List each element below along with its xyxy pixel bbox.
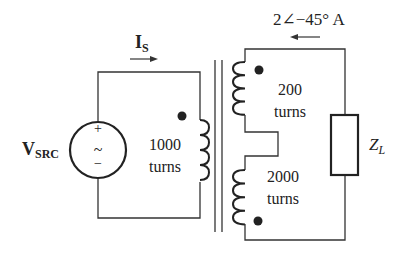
primary-turns-value: 1000 xyxy=(149,136,181,153)
source-minus: − xyxy=(94,156,102,171)
primary-current-arrow-icon xyxy=(130,56,158,62)
primary-turns-unit: turns xyxy=(149,158,181,175)
voltage-source: + ~ − xyxy=(70,121,126,178)
source-plus: + xyxy=(94,121,102,136)
primary-coil-icon xyxy=(200,120,209,180)
load-current-arrow-icon xyxy=(290,34,320,40)
primary-polarity-dot xyxy=(178,112,187,121)
secondary-bottom-turns-unit: turns xyxy=(267,190,299,207)
source-label: VSRC xyxy=(22,139,59,161)
secondary-top-turns-value: 200 xyxy=(278,81,302,98)
secondary-top-polarity-dot xyxy=(255,66,264,75)
primary-coil xyxy=(178,112,210,181)
secondary-bottom-polarity-dot xyxy=(254,217,263,226)
primary-bottom-wire xyxy=(98,178,200,218)
secondary-bottom-turns-value: 2000 xyxy=(267,168,299,185)
secondary-top-coil-icon xyxy=(233,62,245,115)
load-label: ZL xyxy=(369,135,385,157)
secondary-top-turns-unit: turns xyxy=(274,103,306,120)
primary-current-label: IS xyxy=(135,32,149,55)
secondary-series-connection xyxy=(245,115,278,170)
secondary-bottom-coil-icon xyxy=(233,170,245,224)
transformer-core xyxy=(215,60,222,232)
load-current-label: 2∠−45° A xyxy=(273,10,345,29)
load-impedance-icon xyxy=(331,115,358,175)
circuit-diagram: + ~ − VSRC IS 1000 turns 200 turns 2000 … xyxy=(0,0,408,262)
